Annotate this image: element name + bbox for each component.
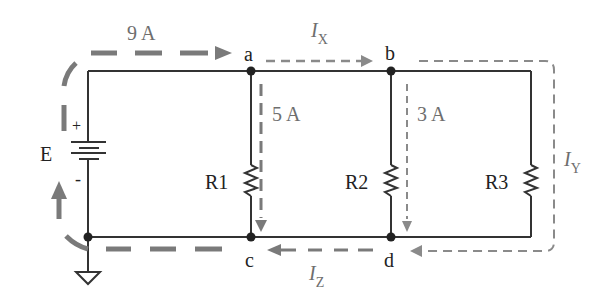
node-c-label: c xyxy=(245,249,254,271)
total-current-arrowhead-right xyxy=(215,46,232,60)
r2-label: R2 xyxy=(345,171,368,193)
node-d xyxy=(387,233,396,242)
iz-arrowhead xyxy=(267,244,281,256)
r1-current-arrowhead xyxy=(255,220,267,232)
iz-label: IZ xyxy=(308,262,324,290)
r1-label: R1 xyxy=(205,171,228,193)
iy-label-sub: Y xyxy=(571,161,581,176)
r3-label: R3 xyxy=(485,171,508,193)
total-current-path xyxy=(59,53,222,249)
ix-label: IX xyxy=(310,19,328,47)
iz-label-sub: Z xyxy=(316,275,325,290)
node-a-label: a xyxy=(244,43,253,65)
resistor-r1-icon xyxy=(245,165,257,196)
resistor-r2-icon xyxy=(385,165,397,196)
node-b-label: b xyxy=(385,42,395,64)
circuit-diagram: + - E R1 R2 R3 a b c d 9 A xyxy=(0,0,614,307)
node-a xyxy=(247,67,256,76)
resistor-r3-icon xyxy=(525,165,537,196)
ix-arrowhead xyxy=(361,55,373,67)
total-current-arrowhead-up xyxy=(51,181,67,199)
iy-current-path xyxy=(419,61,554,251)
node-b xyxy=(387,67,396,76)
r1-current-label: 5 A xyxy=(272,103,301,125)
battery-minus-sign: - xyxy=(75,169,81,189)
wires xyxy=(88,71,531,272)
iy-label: IY xyxy=(563,148,581,176)
iy-arrowhead xyxy=(410,245,422,257)
ground-icon xyxy=(76,272,100,284)
battery-icon xyxy=(71,142,106,159)
node-d-label: d xyxy=(384,249,394,271)
r2-current-arrowhead xyxy=(402,221,412,232)
r2-current-label: 3 A xyxy=(417,103,446,125)
battery-plus-sign: + xyxy=(72,117,81,134)
total-current-label: 9 A xyxy=(127,22,156,44)
source-label: E xyxy=(40,143,52,165)
node-c xyxy=(247,233,256,242)
ix-label-sub: X xyxy=(318,32,328,47)
node-ground xyxy=(84,233,93,242)
nodes xyxy=(84,67,396,242)
